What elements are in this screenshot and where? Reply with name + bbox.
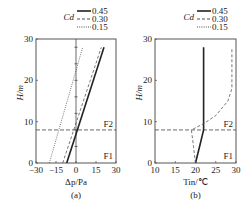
x-tick-label: 30 xyxy=(112,165,122,175)
y-tick-label: 30 xyxy=(24,34,34,44)
chart-svg: −30−15015300102030F2F1Δp/PaH/m(a)Cd0.450… xyxy=(0,0,251,210)
plot-frame xyxy=(155,39,236,163)
chart-figure: −30−15015300102030F2F1Δp/PaH/m(a)Cd0.450… xyxy=(0,0,251,210)
x-tick-label: 15 xyxy=(92,165,102,175)
x-tick-label: 20 xyxy=(191,165,201,175)
legend-label: 0.15 xyxy=(212,22,228,32)
panel-b: 10152025300102030F2F1Tin/℃H/m(b)Cd0.450.… xyxy=(134,6,241,200)
annotation-f1: F1 xyxy=(223,151,233,161)
y-tick-label: 10 xyxy=(24,117,34,127)
legend-title: Cd xyxy=(183,12,194,22)
legend-label: 0.15 xyxy=(92,22,108,32)
x-tick-label: 0 xyxy=(74,165,79,175)
series-line-0-30 xyxy=(63,47,102,163)
panel-a: −30−15015300102030F2F1Δp/PaH/m(a)Cd0.450… xyxy=(15,6,121,200)
y-tick-label: 30 xyxy=(143,34,153,44)
y-tick-label: 0 xyxy=(29,158,34,168)
series-line-0-15 xyxy=(49,47,82,163)
y-tick-label: 20 xyxy=(143,75,153,85)
annotation-f2: F2 xyxy=(223,119,233,129)
y-axis-label: H/m xyxy=(15,84,25,101)
y-tick-label: 0 xyxy=(148,158,153,168)
y-tick-label: 20 xyxy=(24,75,34,85)
series-line-0-45 xyxy=(196,47,204,163)
annotation-f2: F2 xyxy=(103,119,113,129)
x-tick-label: −15 xyxy=(49,165,64,175)
y-axis-label: H/m xyxy=(134,84,144,101)
series-line-0-30 xyxy=(191,47,232,163)
y-tick-label: 10 xyxy=(143,117,153,127)
panel-label: (b) xyxy=(190,190,201,200)
x-tick-label: 15 xyxy=(171,165,181,175)
x-axis-label: Tin/℃ xyxy=(183,177,208,187)
series-line-0-45 xyxy=(67,47,104,163)
x-axis-label: Δp/Pa xyxy=(65,177,87,187)
legend-title: Cd xyxy=(63,12,74,22)
annotation-f1: F1 xyxy=(103,151,113,161)
panel-label: (a) xyxy=(71,190,81,200)
x-tick-label: 30 xyxy=(232,165,242,175)
x-tick-label: 25 xyxy=(211,165,221,175)
